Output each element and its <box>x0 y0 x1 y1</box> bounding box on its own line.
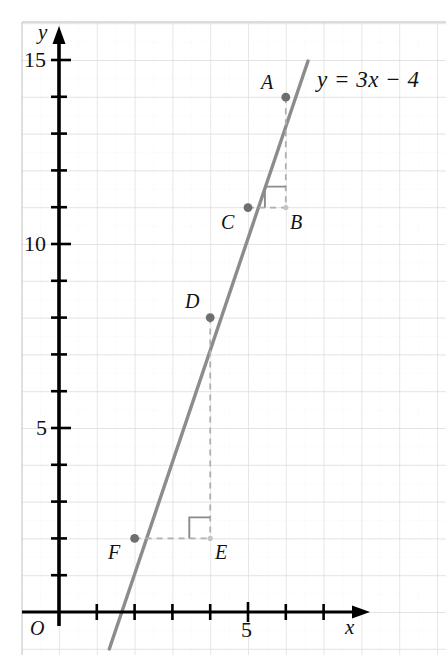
y-axis-label: y <box>38 22 47 43</box>
point-B <box>283 205 288 210</box>
point-F <box>130 534 139 543</box>
point-E <box>208 536 213 541</box>
graph-figure: A B C D E F y = 3x − 4 y x O 15 10 5 5 <box>0 0 446 664</box>
coordinate-plot <box>0 0 446 664</box>
equation-label: y = 3x − 4 <box>317 68 419 91</box>
origin-label: O <box>30 618 44 638</box>
point-label-C: C <box>221 212 234 232</box>
point-A <box>281 93 290 102</box>
x-axis-label: x <box>345 617 354 638</box>
x-tick-label-5: 5 <box>241 619 252 641</box>
grid-background <box>22 22 446 655</box>
y-tick-label-15: 15 <box>24 49 46 71</box>
y-tick-label-5: 5 <box>36 417 47 439</box>
point-label-D: D <box>185 291 199 311</box>
point-C <box>244 203 253 212</box>
y-tick-label-10: 10 <box>24 233 46 255</box>
point-label-F: F <box>108 542 120 562</box>
point-label-A: A <box>261 72 273 92</box>
point-label-E: E <box>215 542 227 562</box>
point-label-B: B <box>290 212 302 232</box>
point-D <box>206 313 215 322</box>
